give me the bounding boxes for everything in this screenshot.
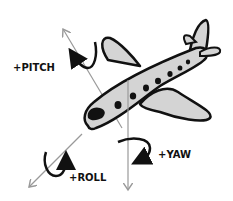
right-wing xyxy=(140,89,211,121)
pitch-rotation-arrow-icon xyxy=(74,42,96,68)
pitch-label: +PITCH xyxy=(13,62,55,73)
roll-rotation-arrow-icon xyxy=(45,152,66,176)
airplane-axes-diagram: +PITCH +YAW +ROLL xyxy=(0,0,233,201)
yaw-rotation-arrow-icon xyxy=(118,139,150,160)
yaw-label: +YAW xyxy=(158,149,191,160)
tail-fin xyxy=(190,20,208,50)
left-wing xyxy=(102,38,140,66)
roll-label: +ROLL xyxy=(69,172,107,183)
